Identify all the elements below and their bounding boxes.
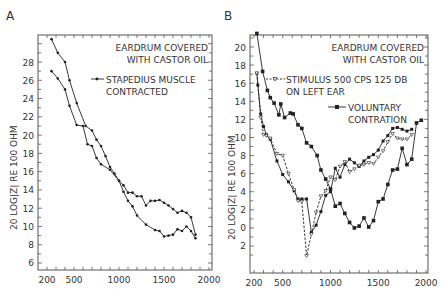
legend-dot-marker-icon: [96, 78, 99, 81]
y-tick-label: 14: [235, 97, 247, 107]
y-tick-label: 8: [28, 240, 34, 250]
x-tick-label: 200: [38, 275, 55, 285]
panel-a-frame: [38, 35, 212, 270]
panel-a-legend-label2: CONTRACTED: [106, 87, 168, 97]
y-tick-label: 14: [23, 185, 35, 195]
panel-a-legend-label1: STAPEDIUS MUSCLE: [106, 75, 196, 85]
panel-b-legend: STIMULUS 500 CPS 125 DB ON LEFT EAR VOLU…: [266, 75, 407, 125]
panel-a: A 2826242220181614121086 200500100015002…: [6, 9, 221, 285]
panel-b-legend2-label2: CONTRATION: [348, 115, 407, 125]
panel-a-ticks: [38, 35, 212, 270]
y-tick-label: 24: [23, 94, 35, 104]
y-tick-label: 16: [23, 167, 35, 177]
y-tick-label: 10: [23, 222, 35, 232]
x-tick-label: 1500: [367, 278, 390, 288]
x-tick-label: 1000: [108, 275, 131, 285]
y-tick-label: 12: [235, 115, 246, 125]
y-tick-label: 22: [23, 112, 34, 122]
legend-triangle-marker-icon: [273, 78, 277, 82]
x-tick-label: 2000: [415, 278, 438, 288]
y-tick-label: 20: [235, 43, 247, 53]
panel-b: B 201816141210864202 200500100015002000 …: [224, 9, 438, 288]
panel-b-series: [255, 32, 423, 258]
panel-a-series: [50, 38, 197, 240]
panel-a-x-tick-labels: 200500100015002000: [38, 275, 220, 285]
panel-b-annotation-line2: WITH CASTOR OIL: [343, 55, 424, 65]
y-tick-label: 6: [28, 258, 34, 268]
x-tick-label: 1500: [153, 275, 176, 285]
x-tick-label: 500: [65, 275, 82, 285]
y-tick-label: 16: [235, 79, 247, 89]
panel-a-annotation-line1: EARDRUM COVERED: [116, 43, 208, 53]
x-tick-label: 1000: [319, 278, 342, 288]
panel-b-legend1-label2: ON LEFT EAR: [286, 87, 345, 97]
y-tick-label: 20: [23, 131, 35, 141]
panel-b-y-axis-label: 20 LOG|Z| RE 100 OHM: [227, 135, 237, 240]
panel-a-y-tick-labels: 2826242220181614121086: [23, 58, 35, 269]
y-tick-label: 18: [23, 149, 35, 159]
y-tick-label: 28: [23, 58, 35, 68]
panel-b-legend1-label1: STIMULUS 500 CPS 125 DB: [286, 75, 407, 85]
y-tick-label: 4: [240, 187, 246, 197]
panel-a-legend: STAPEDIUS MUSCLE CONTRACTED: [91, 75, 196, 97]
panel-b-legend2-label1: VOLUNTARY: [348, 103, 402, 113]
y-tick-label: 26: [23, 76, 35, 86]
panel-a-annotation-line2: WITH CASTOR OIL: [127, 55, 208, 65]
figure: A 2826242220181614121086 200500100015002…: [0, 0, 441, 296]
panel-a-label: A: [6, 9, 15, 23]
panel-b-label: B: [224, 9, 232, 23]
x-tick-label: 200: [245, 278, 262, 288]
y-tick-label: 0: [240, 223, 246, 233]
y-tick-label: 8: [240, 151, 246, 161]
y-tick-label: 6: [240, 169, 246, 179]
series-baseline: [50, 38, 197, 240]
panel-a-y-axis-label: 20 LOG|Z| RE 100 OHM: [9, 125, 19, 230]
panel-b-annotation-line1: EARDRUM COVERED: [332, 43, 424, 53]
panel-b-x-tick-labels: 200500100015002000: [245, 278, 437, 288]
y-tick-label: 2: [240, 205, 246, 215]
y-tick-label: 2: [240, 241, 246, 251]
x-tick-label: 2000: [198, 275, 221, 285]
x-tick-label: 500: [274, 278, 291, 288]
y-tick-label: 18: [235, 61, 247, 71]
y-tick-label: 12: [23, 204, 34, 214]
legend-square-marker-icon: [335, 105, 339, 109]
